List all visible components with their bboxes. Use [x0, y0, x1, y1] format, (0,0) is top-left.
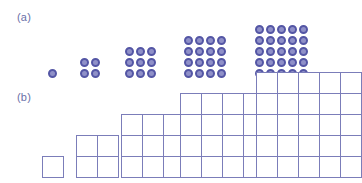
dot: [266, 25, 275, 34]
grid-cell: [257, 94, 278, 115]
dot: [217, 47, 226, 56]
dot: [266, 47, 275, 56]
dot: [255, 25, 264, 34]
grid-cell: [278, 94, 299, 115]
grid-cell: [143, 115, 164, 136]
panel-label-a: (a): [17, 12, 31, 23]
grid-cell: [202, 115, 223, 136]
panel-label-b: (b): [17, 92, 31, 103]
dot: [184, 36, 193, 45]
grid-cell: [341, 115, 362, 136]
grid-cell: [202, 136, 223, 157]
dot: [299, 47, 308, 56]
dot: [195, 69, 204, 78]
grid-cell: [299, 136, 320, 157]
dot: [206, 47, 215, 56]
grid-cell: [320, 136, 341, 157]
dot: [136, 58, 145, 67]
dot: [266, 36, 275, 45]
grid-cell: [122, 115, 143, 136]
dot: [277, 36, 286, 45]
grid-cell: [181, 136, 202, 157]
dot-array-1: [48, 69, 57, 78]
grid-cell: [257, 115, 278, 136]
grid-square-5: [256, 72, 362, 178]
grid-cell: [223, 157, 244, 178]
dot: [266, 58, 275, 67]
grid-cell: [341, 73, 362, 94]
grid-cell: [341, 136, 362, 157]
grid-cell: [122, 157, 143, 178]
dot: [80, 69, 89, 78]
dot: [206, 58, 215, 67]
dot: [184, 47, 193, 56]
dot: [206, 36, 215, 45]
dot-array-5: [255, 25, 308, 78]
grid-cell: [181, 157, 202, 178]
grid-cell: [122, 136, 143, 157]
dot: [299, 36, 308, 45]
grid-square-1: [42, 156, 64, 178]
dot: [91, 58, 100, 67]
grid-cell: [181, 115, 202, 136]
dot: [125, 58, 134, 67]
dot: [255, 36, 264, 45]
grid-cell: [202, 157, 223, 178]
dot: [217, 36, 226, 45]
dot: [299, 58, 308, 67]
grid-cell: [299, 73, 320, 94]
grid-cell: [320, 115, 341, 136]
grid-cell: [278, 115, 299, 136]
grid-cell: [98, 157, 119, 178]
grid-cell: [278, 136, 299, 157]
dot: [277, 58, 286, 67]
grid-cell: [341, 94, 362, 115]
grid-cell: [143, 157, 164, 178]
dot: [184, 69, 193, 78]
dot: [288, 25, 297, 34]
grid-square-4: [180, 93, 265, 178]
dot: [147, 47, 156, 56]
dot: [125, 47, 134, 56]
dot: [136, 47, 145, 56]
dot: [288, 47, 297, 56]
grid-cell: [320, 73, 341, 94]
grid-cell: [257, 136, 278, 157]
dot: [91, 69, 100, 78]
dot: [299, 25, 308, 34]
grid-cell: [257, 73, 278, 94]
dot: [217, 58, 226, 67]
dot: [147, 69, 156, 78]
dot: [277, 47, 286, 56]
grid-cell: [341, 157, 362, 178]
dot: [288, 58, 297, 67]
dot: [288, 36, 297, 45]
grid-cell: [320, 157, 341, 178]
dot: [184, 58, 193, 67]
dot: [206, 69, 215, 78]
dot: [277, 25, 286, 34]
dot: [80, 58, 89, 67]
grid-square-3: [121, 114, 185, 178]
dot: [195, 58, 204, 67]
grid-cell: [278, 157, 299, 178]
grid-cell: [299, 157, 320, 178]
grid-cell: [278, 73, 299, 94]
dot: [147, 58, 156, 67]
grid-cell: [43, 157, 64, 178]
grid-cell: [77, 157, 98, 178]
grid-cell: [98, 136, 119, 157]
dot: [136, 69, 145, 78]
grid-cell: [223, 94, 244, 115]
grid-cell: [223, 115, 244, 136]
dot: [125, 69, 134, 78]
dot: [255, 58, 264, 67]
grid-cell: [257, 157, 278, 178]
grid-square-2: [76, 135, 119, 178]
dot: [195, 36, 204, 45]
grid-cell: [299, 115, 320, 136]
dot-array-2: [80, 58, 100, 78]
grid-cell: [223, 136, 244, 157]
grid-cell: [299, 94, 320, 115]
